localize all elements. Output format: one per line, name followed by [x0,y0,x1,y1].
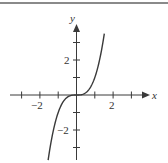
x-tick-label-neg2: −2 [31,99,43,111]
y-tick-label-neg2: −2 [57,124,69,136]
y-axis-label: y [69,12,75,24]
axes [10,24,150,160]
x-axis-arrow-icon [142,92,150,99]
x-axis-label: x [151,89,157,101]
x-tick-label-pos2: 2 [109,99,115,111]
cubic-function-plot: x y −2 2 2 −2 [0,0,168,163]
y-axis-arrow-icon [73,24,80,32]
y-tick-label-pos2: 2 [64,54,70,66]
